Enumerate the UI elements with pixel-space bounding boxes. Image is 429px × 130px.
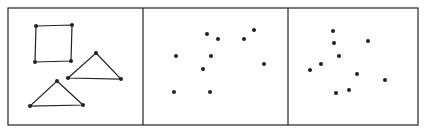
vertex-dot: [94, 51, 98, 55]
vertex-dot: [55, 79, 59, 83]
scatter-dot: [208, 90, 212, 94]
scatter-dot: [205, 32, 209, 36]
vertex-dot: [34, 24, 38, 28]
scatter-dot: [334, 91, 338, 95]
scatter-dot: [172, 90, 176, 94]
vertex-dot: [70, 23, 74, 27]
scatter-dot: [366, 39, 370, 43]
vertex-dot: [81, 103, 85, 107]
scatter-dot: [201, 67, 205, 71]
scatter-dot: [337, 54, 341, 58]
scatter-dot: [319, 62, 323, 66]
scatter-dot: [355, 72, 359, 76]
square-shape: [35, 25, 72, 62]
triangle-shape: [30, 81, 83, 106]
vertex-dot: [119, 77, 123, 81]
scatter-dot: [252, 28, 256, 32]
scatter-dot: [242, 37, 246, 41]
scatter-dot: [308, 68, 312, 72]
scatter-dot: [174, 54, 178, 58]
gestalt-figure: [0, 0, 429, 130]
scatter-dot: [216, 37, 220, 41]
vertex-dot: [66, 76, 70, 80]
vertex-dot: [28, 104, 32, 108]
scatter-dot: [209, 54, 213, 58]
triangle-shape: [68, 53, 121, 79]
scatter-dot: [332, 41, 336, 45]
scatter-dot: [347, 88, 351, 92]
scatter-dot: [383, 78, 387, 82]
vertex-dot: [33, 60, 37, 64]
scatter-dot: [331, 29, 335, 33]
scatter-dot: [262, 62, 266, 66]
vertex-dot: [69, 59, 73, 63]
